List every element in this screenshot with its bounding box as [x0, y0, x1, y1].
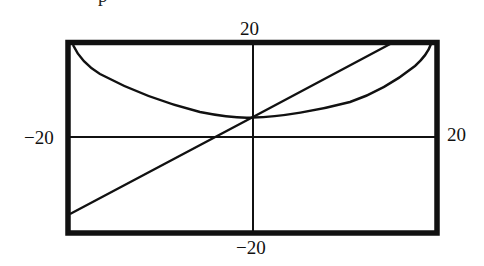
graph-figure: p 20 −20 20 −20 — [0, 0, 484, 266]
tick-label-bottom: −20 — [236, 238, 266, 257]
plot-area — [0, 0, 484, 266]
tick-label-top: 20 — [240, 19, 259, 38]
tick-label-left: −20 — [24, 128, 54, 147]
line-series — [70, 43, 392, 214]
tick-label-right: 20 — [447, 125, 466, 144]
